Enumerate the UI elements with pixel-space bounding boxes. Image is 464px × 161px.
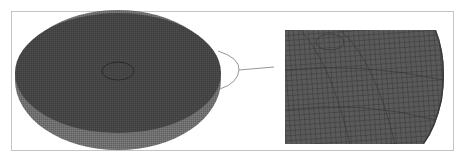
- zoom-callout: [218, 51, 274, 89]
- disk-mesh: [15, 10, 221, 150]
- callout-leader-line: [239, 67, 274, 70]
- disk-top-face: [15, 13, 221, 133]
- mesh-figure: [0, 0, 464, 161]
- callout-arc: [218, 51, 239, 89]
- zoomed-mesh-panel: [280, 25, 450, 150]
